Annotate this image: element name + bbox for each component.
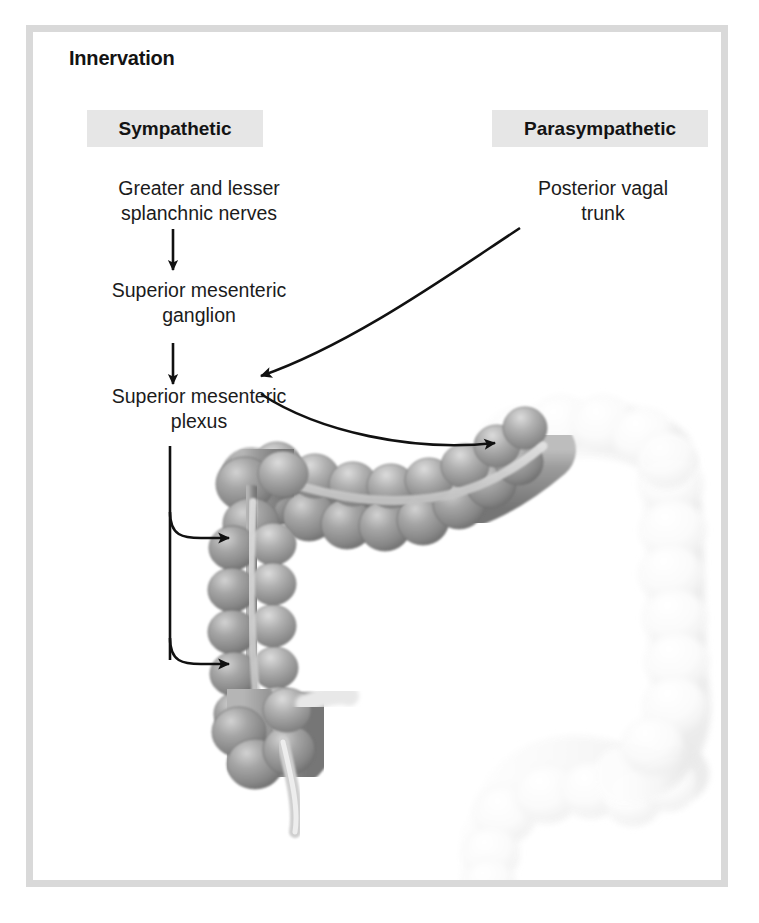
arrow-vagal-trunk-to-plexus [261,228,520,376]
figure-frame: Innervation Sympathetic Parasympathetic … [26,25,728,887]
flow-arrow-layer [33,32,721,880]
arrow-plexus-to-cecum [170,638,229,664]
arrow-plexus-to-ascending-colon [170,512,229,538]
arrow-plexus-to-transverse-colon [261,394,495,445]
